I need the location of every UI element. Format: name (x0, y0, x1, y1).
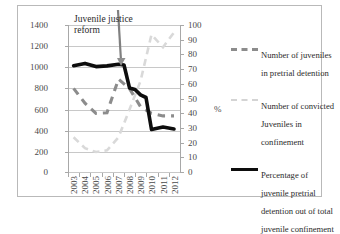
annotation-line-1: Juvenile justice (74, 14, 154, 25)
annotation-juvenile-justice-reform: Juvenile justice reform (74, 14, 154, 36)
y-axis-right-unit-label: % (214, 104, 222, 114)
x-axis-label-2011: 2011 (160, 176, 169, 194)
legend-label-percentage: Percentage of juvenile pretrial detentio… (261, 170, 334, 210)
legend-label-convicted-confinement: Number of convicted Juveniles in confine… (261, 101, 334, 147)
tick-right-30 (181, 128, 184, 129)
x-axis-label-2006: 2006 (104, 176, 113, 194)
x-axis-label-2009: 2009 (137, 176, 146, 194)
legend-item-convicted-confinement: Number of convicted Juveniles in confine… (231, 95, 335, 149)
y-axis-left-label-0: 0 (18, 168, 48, 177)
tick-right-100 (181, 25, 184, 26)
y-axis-left-label-1200: 1200 (18, 42, 48, 51)
y-axis-left-label-600: 600 (18, 106, 48, 115)
x-axis-label-2012: 2012 (171, 176, 180, 194)
y-axis-right-label-60: 60 (188, 80, 214, 89)
x-axis-label-2007: 2007 (115, 176, 124, 194)
series-pretrial-detention-line (74, 79, 174, 116)
y-axis-right-label-10: 10 (188, 153, 214, 162)
y-axis-right-label-0: 0 (188, 168, 214, 177)
plot-area (68, 25, 181, 173)
legend-swatch-dashed-light-line-icon (231, 99, 258, 101)
tick-right-10 (181, 157, 184, 158)
x-axis-label-2010: 2010 (148, 176, 157, 194)
y-axis-right-label-50: 50 (188, 95, 214, 104)
x-axis-label-2005: 2005 (92, 176, 101, 194)
tick-right-20 (181, 143, 184, 144)
y-axis-left-label-800: 800 (18, 84, 48, 93)
tick-right-70 (181, 69, 184, 70)
legend: Number of juveniles in pretrial detentio… (231, 44, 335, 210)
tick-right-90 (181, 40, 184, 41)
legend-item-percentage: Percentage of juvenile pretrial detentio… (231, 164, 335, 210)
y-axis-left-label-1000: 1000 (18, 63, 48, 72)
annotation-line-2: reform (74, 25, 154, 36)
y-axis-left-label-200: 200 (18, 148, 48, 157)
chart-frame: 1400 1200 1000 800 600 400 200 0 100 90 … (17, 5, 322, 197)
y-axis-right-label-20: 20 (188, 139, 214, 148)
tick-right-0 (181, 172, 184, 173)
series-percentage-line (74, 63, 174, 129)
x-axis-label-2003: 2003 (70, 176, 79, 194)
tick-right-50 (181, 99, 184, 100)
legend-item-pretrial-detention: Number of juveniles in pretrial detentio… (231, 44, 335, 80)
y-axis-right-label-40: 40 (188, 109, 214, 118)
tick-right-80 (181, 54, 184, 55)
y-axis-right-label-70: 70 (188, 65, 214, 74)
series-layer (68, 25, 181, 173)
x-axis-label-2004: 2004 (81, 176, 90, 194)
y-axis-right-label-100: 100 (188, 21, 214, 30)
legend-swatch-solid-black-line-icon (231, 168, 258, 171)
y-axis-right-label-80: 80 (188, 50, 214, 59)
y-axis-left-label-400: 400 (18, 127, 48, 136)
y-axis-right-label-30: 30 (188, 124, 214, 133)
tick-right-60 (181, 84, 184, 85)
tick-right-40 (181, 113, 184, 114)
legend-label-pretrial-detention: Number of juveniles in pretrial detentio… (261, 50, 332, 78)
y-axis-right-label-90: 90 (188, 36, 214, 45)
x-axis-label-2008: 2008 (126, 176, 135, 194)
series-convicted-juveniles-line (74, 32, 174, 152)
y-axis-left-label-1400: 1400 (18, 21, 48, 30)
legend-swatch-dashed-dark-line-icon (231, 48, 258, 51)
